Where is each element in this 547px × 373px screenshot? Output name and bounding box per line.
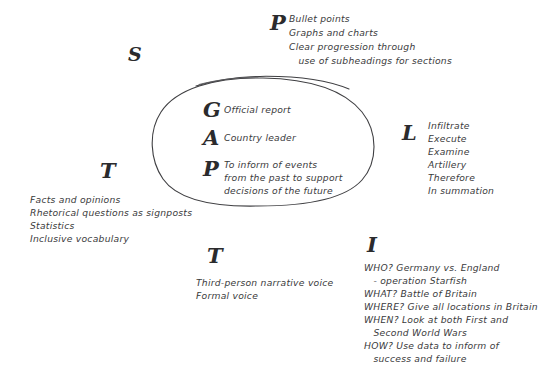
block-l-line-1: Infiltrate <box>428 120 470 133</box>
block-i-line-3: WHAT? Battle of Britain <box>364 288 477 301</box>
block-t-bottom-line-1: Third-person narrative voice <box>196 277 333 290</box>
block-t-left-line-1: Facts and opinions <box>30 194 121 207</box>
block-t-bottom-line-2: Formal voice <box>196 290 258 303</box>
marker-letter-g: G <box>203 99 221 120</box>
center-row-g-text: Official report <box>224 104 291 117</box>
block-i-line-6: Second World Wars <box>364 327 467 340</box>
block-i-line-5: WHEN? Look at both First and <box>364 314 508 327</box>
block-l-line-4: Artillery <box>428 159 466 172</box>
marker-letter-s: S <box>128 44 142 65</box>
block-p-top-line-2: Graphs and charts <box>289 27 378 40</box>
marker-letter-p-top: P <box>270 12 286 33</box>
marker-letter-i: I <box>367 234 377 255</box>
center-row-p-line-2: from the past to support <box>224 172 343 185</box>
block-l-line-6: In summation <box>428 185 494 198</box>
whiteboard-canvas: S P Bullet points Graphs and charts Clea… <box>0 0 547 373</box>
block-t-left-line-3: Statistics <box>30 220 75 233</box>
block-i-line-7: HOW? Use data to inform of <box>364 340 499 353</box>
block-t-left-line-4: Inclusive vocabulary <box>30 233 129 246</box>
center-row-a-text: Country leader <box>224 132 296 145</box>
marker-letter-t-left: T <box>100 160 116 181</box>
block-p-top-line-1: Bullet points <box>289 13 350 26</box>
block-l-line-3: Examine <box>428 146 470 159</box>
marker-letter-t-bottom: T <box>207 245 223 266</box>
block-l-line-5: Therefore <box>428 172 475 185</box>
center-row-p-line-3: decisions of the future <box>224 185 333 198</box>
marker-letter-a: A <box>203 127 219 148</box>
block-l-line-2: Execute <box>428 133 467 146</box>
block-p-top-line-3: Clear progression through <box>289 41 415 54</box>
marker-letter-p-center: P <box>203 158 219 179</box>
block-i-line-2: - operation Starfish <box>364 275 467 288</box>
center-row-p-line-1: To inform of events <box>224 159 317 172</box>
block-i-line-1: WHO? Germany vs. England <box>364 262 500 275</box>
block-i-line-4: WHERE? Give all locations in Britain <box>364 301 538 314</box>
block-i-line-8: success and failure <box>364 353 467 366</box>
block-t-left-line-2: Rhetorical questions as signposts <box>30 207 192 220</box>
marker-letter-l: L <box>402 122 417 143</box>
block-p-top-line-4: use of subheadings for sections <box>289 55 452 68</box>
